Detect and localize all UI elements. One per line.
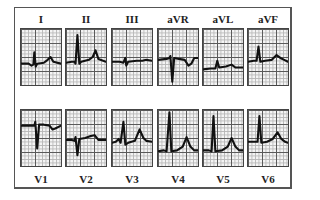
ecg-lead-V5 (202, 109, 244, 167)
ecg-lead-III (111, 28, 153, 86)
ecg-trace (158, 110, 198, 166)
lead-label-aVF: aVF (247, 13, 289, 25)
lead-label-II: II (65, 13, 107, 25)
lead-label-V6: V6 (247, 173, 289, 185)
ecg-lead-V3 (111, 109, 153, 167)
ecg-lead-V4 (157, 109, 199, 167)
ecg-trace (203, 110, 243, 166)
ecg-lead-aVL (202, 28, 244, 86)
ecg-trace (203, 29, 243, 85)
lead-label-aVL: aVL (202, 13, 244, 25)
ecg-lead-V6 (247, 109, 289, 167)
ecg-trace (112, 110, 152, 166)
ecg-trace (21, 29, 61, 85)
lead-label-I: I (20, 13, 62, 25)
lead-label-V2: V2 (65, 173, 107, 185)
ecg-trace (21, 110, 61, 166)
ecg-trace (158, 29, 198, 85)
ecg-trace (112, 29, 152, 85)
ecg-lead-aVF (247, 28, 289, 86)
lead-label-V3: V3 (111, 173, 153, 185)
ecg-lead-V1 (20, 109, 62, 167)
ecg-lead-aVR (157, 28, 199, 86)
ecg-lead-I (20, 28, 62, 86)
ecg-lead-II (65, 28, 107, 86)
lead-label-V1: V1 (20, 173, 62, 185)
lead-label-III: III (111, 13, 153, 25)
ecg-trace (66, 29, 106, 85)
ecg-lead-V2 (65, 109, 107, 167)
ecg-trace (66, 110, 106, 166)
lead-label-V4: V4 (157, 173, 199, 185)
lead-label-aVR: aVR (157, 13, 199, 25)
lead-label-V5: V5 (202, 173, 244, 185)
ecg-trace (248, 29, 288, 85)
ecg-trace (248, 110, 288, 166)
